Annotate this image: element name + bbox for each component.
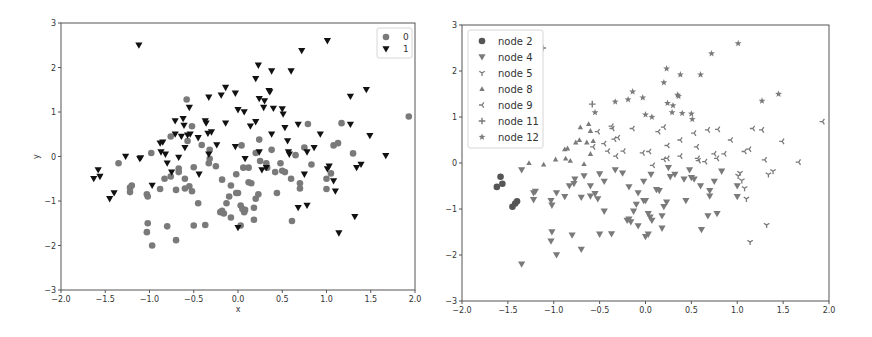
- data-point: [189, 123, 196, 130]
- data-point: [335, 140, 342, 147]
- x-tick-label: 2.0: [409, 295, 422, 304]
- data-point: [338, 120, 345, 127]
- data-point: [221, 210, 228, 217]
- data-point: [206, 155, 213, 162]
- legend-marker-circle-icon: [479, 38, 486, 45]
- y-tick-label: −1: [44, 197, 56, 206]
- y-axis: 3210−1−2−3: [445, 21, 462, 306]
- x-axis: −2.0−1.5−1.0−0.50.00.51.01.52.0: [452, 301, 835, 315]
- y-tick-label: 2: [452, 67, 457, 76]
- data-point: [272, 169, 279, 176]
- y-tick-label: −2: [44, 242, 56, 251]
- data-point: [228, 182, 235, 189]
- data-point: [282, 169, 289, 176]
- data-point: [219, 176, 226, 183]
- plot-area: [61, 23, 415, 290]
- x-axis: −2.0−1.5−1.0−0.50.00.51.01.52.0: [51, 290, 421, 304]
- x-axis-label: x: [236, 305, 241, 314]
- data-point: [497, 174, 504, 181]
- data-point: [144, 193, 151, 200]
- y-tick-label: −2: [445, 251, 457, 260]
- x-tick-label: 0.0: [639, 306, 652, 315]
- data-point: [167, 173, 174, 180]
- data-point: [164, 223, 171, 230]
- x-tick-label: −0.5: [184, 295, 203, 304]
- data-point: [149, 242, 156, 249]
- data-point: [328, 170, 335, 177]
- x-tick-label: 1.5: [364, 295, 377, 304]
- x-tick-label: −0.5: [590, 306, 609, 315]
- x-tick-label: 1.0: [731, 306, 744, 315]
- data-point: [323, 186, 330, 193]
- data-point: [190, 164, 197, 171]
- data-point: [494, 184, 501, 191]
- y-axis-label: y: [32, 154, 41, 159]
- legend-label: node 12: [498, 132, 539, 143]
- data-point: [256, 136, 263, 143]
- data-point: [238, 142, 245, 149]
- y-tick-label: 3: [51, 19, 56, 28]
- data-point: [268, 147, 275, 154]
- legend-label: 1: [403, 44, 409, 54]
- chart-left-svg: −2.0−1.5−1.0−0.50.00.51.01.52.03210−1−2−…: [0, 0, 436, 337]
- data-point: [406, 113, 413, 120]
- data-point: [189, 188, 196, 195]
- x-tick-label: 0.0: [232, 295, 245, 304]
- y-tick-label: −1: [445, 205, 457, 214]
- legend-label: node 5: [498, 68, 533, 79]
- data-point: [257, 158, 264, 165]
- data-point: [292, 152, 299, 159]
- legend-label: node 2: [498, 36, 533, 47]
- y-tick-label: −3: [445, 297, 457, 306]
- data-point: [242, 207, 249, 214]
- x-tick-label: −1.5: [96, 295, 115, 304]
- legend: node 2node 4node 5node 8node 9node 11nod…: [468, 30, 543, 148]
- data-point: [161, 175, 168, 182]
- data-point: [289, 218, 296, 225]
- x-tick-label: 1.5: [777, 306, 790, 315]
- data-point: [251, 204, 258, 211]
- data-point: [248, 180, 255, 187]
- chart-right-svg: −2.0−1.5−1.0−0.50.00.51.01.52.03210−1−2−…: [436, 0, 872, 337]
- legend-label: node 11: [498, 116, 539, 127]
- data-point: [198, 142, 205, 149]
- data-point: [144, 229, 151, 236]
- data-point: [228, 214, 235, 221]
- data-point: [251, 216, 258, 223]
- data-point: [274, 190, 281, 197]
- data-point: [190, 222, 197, 229]
- data-point: [245, 164, 252, 171]
- y-tick-label: 0: [452, 159, 457, 168]
- legend-marker-circle-icon: [383, 34, 390, 41]
- data-point: [223, 200, 230, 207]
- scatter-chart-labels-0-1: −2.0−1.5−1.0−0.50.00.51.01.52.03210−1−2−…: [0, 0, 436, 337]
- x-tick-label: 0.5: [685, 306, 698, 315]
- y-tick-label: 1: [51, 108, 56, 117]
- data-point: [213, 163, 220, 170]
- data-point: [288, 175, 295, 182]
- y-tick-label: 0: [51, 153, 56, 162]
- x-tick-label: 0.5: [276, 295, 289, 304]
- scatter-chart-nodes: −2.0−1.5−1.0−0.50.00.51.01.52.03210−1−2−…: [436, 0, 872, 337]
- y-tick-label: −3: [44, 286, 56, 295]
- data-point: [175, 165, 182, 172]
- legend-label: node 9: [498, 100, 533, 111]
- data-point: [148, 150, 155, 157]
- data-point: [305, 121, 312, 128]
- data-point: [115, 160, 122, 167]
- x-tick-label: −1.0: [544, 306, 563, 315]
- y-axis: 3210−1−2−3: [44, 19, 61, 295]
- data-point: [173, 237, 180, 244]
- data-point: [157, 186, 164, 193]
- data-point: [144, 220, 151, 227]
- x-tick-label: 2.0: [823, 306, 836, 315]
- legend-label: node 4: [498, 52, 533, 63]
- data-point: [167, 133, 174, 140]
- y-tick-label: 2: [51, 64, 56, 73]
- data-point: [255, 191, 262, 198]
- data-point: [235, 190, 242, 197]
- data-point: [182, 175, 189, 182]
- y-tick-label: 1: [452, 113, 457, 122]
- data-point: [226, 193, 233, 200]
- data-point: [514, 198, 521, 205]
